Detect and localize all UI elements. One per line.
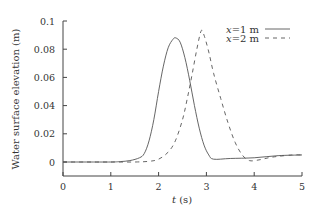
y-axis-label: Water surface elevation (m) [10, 29, 21, 170]
x-tick-label: 2 [156, 181, 162, 192]
chart: 00.020.040.060.080.1 012345 x=1 mx=2 m W… [0, 0, 317, 216]
x-axis-ticks: 012345 [60, 172, 305, 192]
x-axis-label: t (s) [172, 194, 192, 205]
y-tick-label: 0.08 [34, 44, 55, 55]
x-tick-label: 5 [299, 181, 305, 192]
x-axis-label-unit: (s) [176, 194, 192, 205]
y-tick-label: 0.06 [34, 72, 55, 83]
y-axis-ticks: 00.020.040.060.080.1 [34, 16, 67, 168]
x-tick-label: 4 [251, 181, 257, 192]
y-tick-label: 0.1 [40, 16, 55, 27]
axis-lines [63, 21, 302, 176]
legend: x=1 mx=2 m [226, 24, 290, 44]
y-tick-label: 0.02 [34, 128, 55, 139]
plot-frame [63, 21, 302, 176]
data-series [63, 30, 302, 162]
x-tick-label: 3 [203, 181, 209, 192]
y-tick-label: 0.04 [34, 100, 55, 111]
x-tick-label: 0 [60, 181, 66, 192]
y-tick-label: 0 [49, 157, 55, 168]
legend-label: x=2 m [226, 33, 260, 44]
series-line-1 [63, 38, 302, 162]
x-tick-label: 1 [108, 181, 114, 192]
